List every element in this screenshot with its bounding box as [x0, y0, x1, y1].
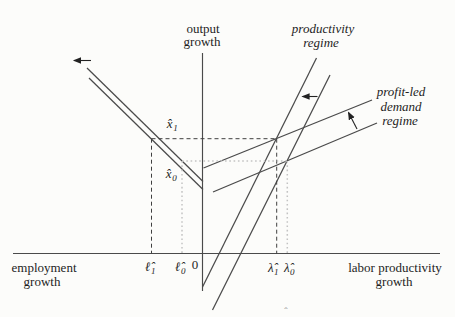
- profit-led-demand-regime-label-line2: demand: [380, 100, 421, 113]
- l0-base: ℓ̂: [175, 259, 180, 274]
- point-label-lambda1: λ̂1: [268, 261, 278, 274]
- origin-label: 0: [192, 258, 199, 271]
- new-profit-led-demand-line: [204, 100, 373, 168]
- old-productivity-regime-line: [213, 75, 331, 310]
- profit-led-demand-regime-label-line3: regime: [382, 114, 418, 127]
- old-demand-line-left: [87, 68, 203, 182]
- diagram-figure: output growth employment growth labor pr…: [0, 0, 455, 317]
- lambda1-sub: 1: [274, 267, 279, 277]
- output-growth-label-line2: growth: [184, 35, 221, 48]
- point-label-x0: x̂0: [166, 167, 176, 180]
- point-label-l1: ℓ̂1: [145, 260, 155, 273]
- point-label-lambda0: λ̂0: [284, 261, 294, 274]
- l0-sub: 0: [181, 266, 186, 276]
- x1-base: x̂: [167, 116, 173, 131]
- labor-productivity-growth-label-line1: labor productivity: [348, 261, 442, 274]
- x0-sub: 0: [172, 173, 177, 183]
- l1-base: ℓ̂: [145, 259, 150, 274]
- profit-led-demand-regime-label-line1: profit-led: [377, 85, 426, 98]
- point-label-x1: x̂1: [167, 117, 177, 130]
- employment-growth-label-line1: employment: [12, 261, 77, 274]
- lambda0-base: λ̂: [284, 260, 290, 275]
- lambda1-base: λ̂: [268, 260, 274, 275]
- old-profit-led-demand-line: [213, 123, 377, 192]
- x1-sub: 1: [173, 123, 178, 133]
- x0-base: x̂: [166, 166, 172, 181]
- stray-caret-artifact: ˆ: [284, 307, 287, 317]
- l1-sub: 1: [151, 266, 156, 276]
- labor-productivity-growth-label-line2: growth: [376, 275, 413, 288]
- point-label-l0: ℓ̂0: [175, 260, 185, 273]
- shift-up-arrow-profit-led: [349, 113, 358, 130]
- lambda0-sub: 0: [290, 267, 295, 277]
- employment-growth-label-line2: growth: [24, 275, 61, 288]
- productivity-regime-label-line1: productivity: [292, 22, 354, 35]
- productivity-regime-label-line2: regime: [303, 36, 339, 49]
- new-demand-line-left: [89, 78, 203, 190]
